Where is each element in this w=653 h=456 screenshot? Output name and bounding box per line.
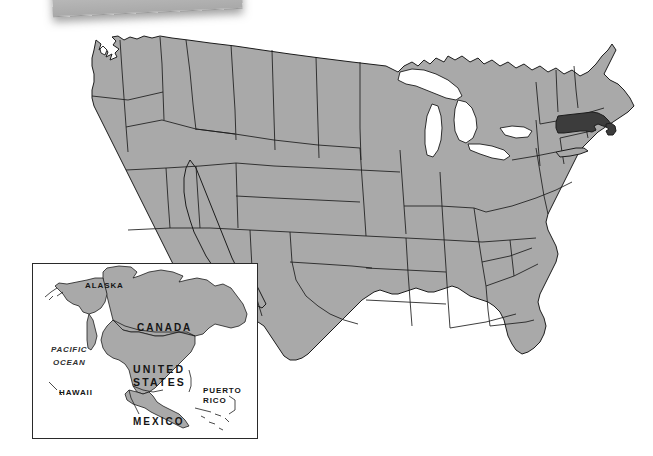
cape-cod xyxy=(606,123,616,135)
inset-hawaii xyxy=(49,382,62,395)
highlighted-state-massachusetts xyxy=(556,112,611,133)
inset-alaska-panhandle xyxy=(87,314,97,350)
map-figure: ALASKA CANADA PACIFIC OCEAN UNITED STATE… xyxy=(0,0,653,456)
inset-florida xyxy=(189,370,191,392)
inset-mexico xyxy=(125,390,189,428)
inset-alaska xyxy=(55,278,107,314)
north-america-inset: ALASKA CANADA PACIFIC OCEAN UNITED STATE… xyxy=(32,263,258,439)
inset-puerto-rico-leader xyxy=(229,396,235,414)
inset-caribbean xyxy=(195,408,229,430)
